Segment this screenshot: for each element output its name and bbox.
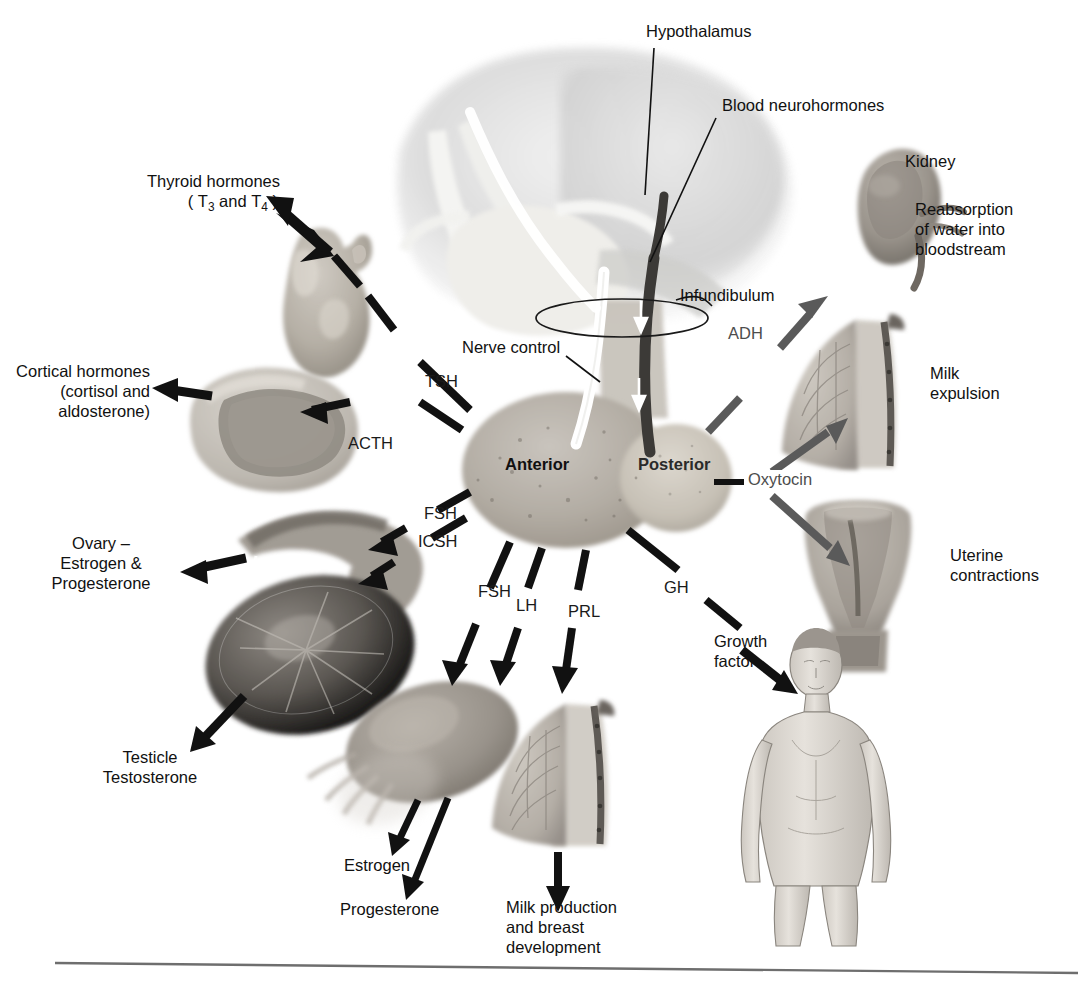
label-reabsorption-of-water: Reabsorption of water into bloodstream (915, 200, 1013, 260)
label-uterine-line1: Uterine (950, 546, 1039, 566)
label-cortical-line2: (cortisol and (0, 382, 150, 402)
label-infundibulum: Infundibulum (680, 286, 774, 306)
label-oxytocin: Oxytocin (744, 470, 816, 489)
label-nerve-control: Nerve control (462, 338, 560, 358)
label-tsh: TSH (425, 372, 458, 391)
arrow-ovary-label (180, 558, 246, 584)
thyroid-and-word: and (219, 192, 247, 210)
label-ovary-estrogen-progesterone: Ovary – Estrogen & Progesterone (20, 534, 182, 594)
label-thyroid-hormones-line1: Thyroid hormones (60, 172, 280, 192)
label-blood-neurohormones: Blood neurohormones (722, 96, 884, 116)
label-milk-expulsion-line2: expulsion (930, 384, 1000, 404)
label-posterior-lobe: Posterior (638, 455, 710, 474)
label-fsh-upper: FSH (424, 504, 457, 523)
label-growth-factor-line1: Growth (714, 632, 767, 652)
label-uterine-contractions: Uterine contractions (950, 546, 1039, 586)
anatomy-illustration-layer (0, 0, 1078, 983)
label-cortical-line1: Cortical hormones (0, 362, 150, 382)
label-anterior-lobe: Anterior (505, 455, 569, 474)
label-testicle-line1: Testicle (60, 748, 240, 768)
thyroid-t3-symbol: T (198, 192, 208, 210)
label-thyroid-hormones: Thyroid hormones ( T3 and T4 ) (60, 172, 280, 215)
label-milk-production-line2: and breast (506, 918, 617, 938)
adrenal-gland-section-illustration (190, 368, 358, 493)
label-kidney: Kidney (905, 152, 955, 172)
breast-section-right-illustration (782, 314, 904, 470)
label-milk-expulsion: Milk expulsion (930, 364, 1000, 404)
endocrine-diagram-figure: Hypothalamus Blood neurohormones Infundi… (0, 0, 1078, 983)
label-prl: PRL (568, 602, 600, 621)
label-reabsorption-line2: of water into (915, 220, 1013, 240)
label-uterine-line2: contractions (950, 566, 1039, 586)
label-reabsorption-line3: bloodstream (915, 240, 1013, 260)
label-milk-production-line3: development (506, 938, 617, 958)
label-growth-factor-line2: factor (714, 652, 767, 672)
label-cortical-line3: aldosterone) (0, 402, 150, 422)
label-ovary-line1: Ovary – (20, 534, 182, 554)
label-testicle-testosterone: Testicle Testosterone (60, 748, 240, 788)
thyroid-t4-subscript: 4 (261, 200, 268, 214)
label-milk-production-line1: Milk production (506, 898, 617, 918)
arrow-testicle-label (190, 696, 244, 752)
label-milk-expulsion-line1: Milk (930, 364, 1000, 384)
bottom-rule (55, 963, 1078, 973)
label-progesterone: Progesterone (340, 900, 439, 920)
label-lh: LH (516, 596, 537, 615)
label-acth: ACTH (348, 434, 393, 453)
human-figure-illustration (741, 628, 891, 946)
label-cortical-hormones: Cortical hormones (cortisol and aldoster… (0, 362, 150, 422)
label-milk-production: Milk production and breast development (506, 898, 617, 958)
label-growth-factor: Growth factor (714, 632, 767, 672)
label-fsh-lower: FSH (478, 582, 511, 601)
label-gh: GH (664, 578, 689, 597)
thyroid-t4-symbol: T (251, 192, 261, 210)
label-estrogen: Estrogen (344, 856, 410, 876)
label-thyroid-hormones-line2: ( T3 and T4 ) (60, 192, 280, 215)
label-reabsorption-line1: Reabsorption (915, 200, 1013, 220)
label-icsh: ICSH (418, 532, 457, 551)
label-ovary-line3: Progesterone (20, 574, 182, 594)
label-adh: ADH (728, 324, 763, 343)
label-hypothalamus: Hypothalamus (646, 22, 751, 42)
arrow-prl (552, 550, 586, 694)
label-testicle-line2: Testosterone (60, 768, 240, 788)
label-ovary-line2: Estrogen & (20, 554, 182, 574)
